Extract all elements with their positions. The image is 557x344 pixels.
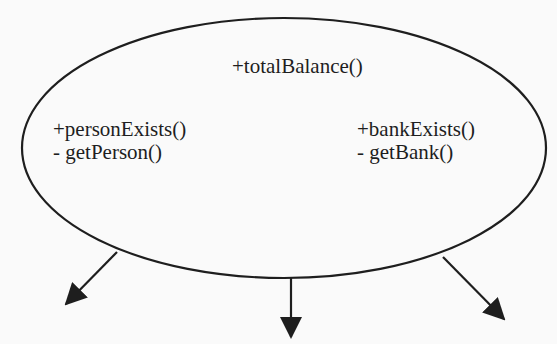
method-person-exists: +personExists() [53,118,186,141]
method-total-balance: +totalBalance() [232,55,363,78]
diagram-graphics [0,0,557,344]
method-get-bank: - getBank() [357,141,475,164]
arrow-right [443,257,504,319]
arrow-left [66,252,117,304]
bank-methods-group: +bankExists() - getBank() [357,118,475,164]
method-bank-exists: +bankExists() [357,118,475,141]
person-methods-group: +personExists() - getPerson() [53,118,186,164]
diagram-canvas: +totalBalance() +personExists() - getPer… [0,0,557,344]
method-get-person: - getPerson() [53,141,186,164]
